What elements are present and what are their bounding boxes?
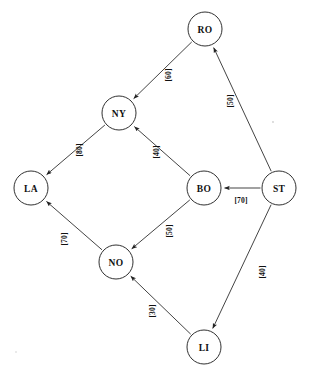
edge-weight-label: [60] bbox=[164, 68, 173, 81]
node-label: LI bbox=[199, 343, 210, 353]
edge-weight-label: [40] bbox=[258, 265, 267, 278]
node-label: NO bbox=[109, 258, 124, 268]
edge-weight-label: [40] bbox=[152, 145, 161, 158]
edge-weight-label: [50] bbox=[226, 94, 235, 107]
edge-st-to-ro bbox=[214, 48, 272, 172]
node-label: LA bbox=[24, 184, 38, 194]
edge-weight-label: [50] bbox=[165, 224, 174, 237]
node-ny[interactable]: NY bbox=[102, 96, 136, 130]
edge-li-to-no bbox=[131, 276, 191, 334]
node-label: NY bbox=[112, 109, 126, 119]
edge-weight-label: [80] bbox=[75, 143, 84, 156]
edge-no-to-la bbox=[46, 201, 102, 249]
network-diagram: RONYLABOSTNOLI [50][60][80][40][70][50][… bbox=[0, 0, 310, 377]
node-no[interactable]: NO bbox=[99, 245, 133, 279]
edge-weight-label: [30] bbox=[148, 304, 157, 317]
node-label: ST bbox=[273, 184, 286, 194]
edge-bo-to-ny bbox=[134, 127, 190, 176]
node-label: RO bbox=[198, 25, 213, 35]
scan-speck bbox=[272, 121, 274, 123]
node-label: BO bbox=[197, 184, 211, 194]
scan-speck bbox=[15, 351, 17, 353]
node-ro[interactable]: RO bbox=[188, 12, 222, 46]
node-la[interactable]: LA bbox=[14, 171, 48, 205]
edge-weight-label: [70] bbox=[234, 196, 247, 205]
node-bo[interactable]: BO bbox=[187, 171, 221, 205]
edge-weight-label: [70] bbox=[60, 232, 69, 245]
node-li[interactable]: LI bbox=[187, 330, 221, 364]
edge-bo-to-no bbox=[132, 200, 190, 249]
node-st[interactable]: ST bbox=[262, 171, 296, 205]
edge-layer bbox=[46, 42, 271, 334]
